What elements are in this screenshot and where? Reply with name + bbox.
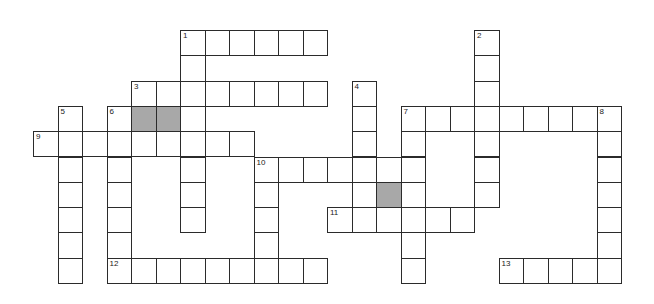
letter-cell[interactable] (572, 106, 598, 132)
letter-cell[interactable] (180, 157, 206, 183)
letter-cell[interactable]: 11 (327, 207, 353, 233)
letter-cell[interactable] (303, 30, 329, 56)
letter-cell[interactable] (58, 207, 84, 233)
letter-cell[interactable] (474, 55, 500, 81)
letter-cell[interactable] (450, 106, 476, 132)
letter-cell[interactable] (597, 232, 623, 258)
letter-cell[interactable] (254, 30, 280, 56)
letter-cell[interactable]: 12 (107, 258, 133, 284)
letter-cell[interactable] (205, 30, 231, 56)
letter-cell[interactable]: 5 (58, 106, 84, 132)
letter-cell[interactable] (303, 157, 329, 183)
letter-cell[interactable]: 13 (499, 258, 525, 284)
letter-cell[interactable] (401, 157, 427, 183)
letter-cell[interactable] (352, 131, 378, 157)
letter-cell[interactable] (254, 207, 280, 233)
letter-cell[interactable] (254, 182, 280, 208)
letter-cell[interactable] (156, 81, 182, 107)
letter-cell[interactable] (58, 131, 84, 157)
letter-cell[interactable] (156, 258, 182, 284)
clue-number: 10 (257, 159, 266, 167)
letter-cell[interactable] (278, 30, 304, 56)
letter-cell[interactable] (180, 258, 206, 284)
letter-cell[interactable] (278, 81, 304, 107)
letter-cell[interactable] (401, 131, 427, 157)
letter-cell[interactable] (229, 258, 255, 284)
clue-number: 11 (330, 209, 338, 217)
letter-cell[interactable] (474, 131, 500, 157)
letter-cell[interactable] (180, 81, 206, 107)
letter-cell[interactable] (107, 232, 133, 258)
letter-cell[interactable] (548, 258, 574, 284)
letter-cell[interactable] (474, 81, 500, 107)
letter-cell[interactable] (205, 81, 231, 107)
letter-cell[interactable] (450, 207, 476, 233)
letter-cell[interactable] (327, 157, 353, 183)
letter-cell[interactable] (180, 182, 206, 208)
letter-cell[interactable] (523, 106, 549, 132)
letter-cell[interactable] (82, 131, 108, 157)
letter-cell[interactable] (597, 182, 623, 208)
letter-cell[interactable] (180, 55, 206, 81)
letter-cell[interactable] (474, 182, 500, 208)
letter-cell[interactable] (58, 182, 84, 208)
letter-cell[interactable] (107, 182, 133, 208)
letter-cell[interactable] (474, 157, 500, 183)
letter-cell[interactable] (205, 131, 231, 157)
letter-cell[interactable] (499, 106, 525, 132)
letter-cell[interactable] (180, 131, 206, 157)
letter-cell[interactable]: 6 (107, 106, 133, 132)
letter-cell[interactable] (523, 258, 549, 284)
letter-cell[interactable] (597, 131, 623, 157)
letter-cell[interactable] (303, 258, 329, 284)
letter-cell[interactable] (597, 157, 623, 183)
letter-cell[interactable] (58, 258, 84, 284)
clue-number: 8 (600, 108, 604, 116)
letter-cell[interactable] (352, 106, 378, 132)
letter-cell[interactable] (401, 232, 427, 258)
letter-cell[interactable] (58, 157, 84, 183)
letter-cell[interactable] (376, 157, 402, 183)
letter-cell[interactable] (229, 81, 255, 107)
letter-cell[interactable]: 8 (597, 106, 623, 132)
letter-cell[interactable] (107, 207, 133, 233)
letter-cell[interactable] (303, 81, 329, 107)
letter-cell[interactable] (376, 207, 402, 233)
letter-cell[interactable] (548, 106, 574, 132)
letter-cell[interactable] (352, 182, 378, 208)
letter-cell[interactable] (254, 258, 280, 284)
letter-cell[interactable] (254, 81, 280, 107)
letter-cell[interactable] (229, 131, 255, 157)
letter-cell[interactable] (229, 30, 255, 56)
letter-cell[interactable]: 2 (474, 30, 500, 56)
letter-cell[interactable] (474, 106, 500, 132)
letter-cell[interactable] (401, 182, 427, 208)
letter-cell[interactable]: 10 (254, 157, 280, 183)
letter-cell[interactable] (401, 258, 427, 284)
letter-cell[interactable] (425, 207, 451, 233)
letter-cell[interactable] (107, 131, 133, 157)
letter-cell[interactable] (352, 207, 378, 233)
letter-cell[interactable]: 9 (33, 131, 59, 157)
letter-cell[interactable]: 3 (131, 81, 157, 107)
letter-cell[interactable] (425, 106, 451, 132)
letter-cell[interactable] (597, 258, 623, 284)
letter-cell[interactable]: 7 (401, 106, 427, 132)
letter-cell[interactable] (180, 207, 206, 233)
letter-cell[interactable] (597, 207, 623, 233)
letter-cell[interactable] (107, 157, 133, 183)
letter-cell[interactable] (278, 258, 304, 284)
letter-cell[interactable] (180, 106, 206, 132)
letter-cell[interactable]: 1 (180, 30, 206, 56)
letter-cell[interactable] (131, 131, 157, 157)
letter-cell[interactable] (156, 131, 182, 157)
letter-cell[interactable] (254, 232, 280, 258)
letter-cell[interactable] (58, 232, 84, 258)
letter-cell[interactable] (401, 207, 427, 233)
letter-cell[interactable] (131, 258, 157, 284)
letter-cell[interactable] (205, 258, 231, 284)
letter-cell[interactable] (572, 258, 598, 284)
letter-cell[interactable] (352, 157, 378, 183)
letter-cell[interactable] (278, 157, 304, 183)
letter-cell[interactable]: 4 (352, 81, 378, 107)
